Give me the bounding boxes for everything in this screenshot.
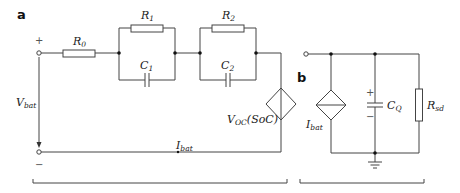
- resistor-r1: [131, 25, 163, 32]
- terminal-plus: [37, 51, 41, 55]
- label-vbat: Vbat: [16, 96, 37, 110]
- label-ibat-b: Ibat: [305, 118, 324, 132]
- capacitor-c2: [226, 73, 230, 87]
- panel-b-label: b: [297, 70, 306, 85]
- label-c2: C2: [221, 59, 234, 73]
- label-voc: VOC(SoC): [227, 113, 278, 127]
- label-rsd: Rsd: [426, 99, 444, 113]
- label-ibat-a: Ibat: [175, 139, 194, 153]
- capacitor-cq: [367, 103, 383, 107]
- bracket-a: [33, 179, 287, 183]
- label-r0: R0: [72, 35, 86, 49]
- cq-plus-sign: +: [366, 87, 374, 98]
- panel-a-label: a: [17, 7, 26, 22]
- resistor-r2: [212, 25, 244, 32]
- circuit-diagram: a b + − R0 R1: [0, 0, 460, 193]
- bracket-b: [300, 179, 424, 183]
- capacitor-c1: [145, 73, 149, 87]
- label-r1: R1: [140, 9, 154, 23]
- plus-sign: +: [35, 35, 43, 46]
- dependent-current-source: [316, 90, 346, 120]
- label-r2: R2: [221, 9, 235, 23]
- cq-minus-sign: −: [366, 111, 374, 122]
- terminal-minus: [37, 150, 41, 154]
- minus-sign: −: [35, 159, 43, 170]
- label-cq: CQ: [387, 99, 402, 113]
- resistor-r0: [63, 50, 95, 57]
- label-c1: C1: [140, 59, 153, 73]
- terminal-b: [304, 52, 308, 56]
- resistor-rsd: [416, 89, 423, 121]
